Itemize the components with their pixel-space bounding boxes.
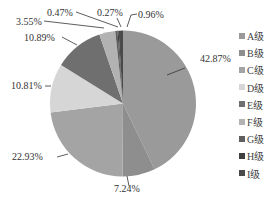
- value-label: 22.93%: [12, 151, 43, 162]
- legend-label: D级: [247, 80, 264, 95]
- legend-item-h: H级: [239, 147, 264, 164]
- leader-line: [44, 21, 104, 28]
- value-label: 0.96%: [138, 9, 164, 20]
- value-label: 0.27%: [97, 7, 123, 18]
- value-label: 42.87%: [200, 53, 231, 64]
- legend-label: B级: [247, 45, 264, 60]
- legend-item-f: F级: [239, 113, 264, 130]
- legend: A级 B级 C级 D级 E级 F级 G级 H级 I级: [239, 27, 264, 182]
- leader-line: [57, 154, 68, 157]
- legend-label: G级: [247, 131, 264, 146]
- legend-label: C级: [247, 62, 264, 77]
- value-label: 0.47%: [47, 7, 73, 18]
- legend-swatch: [239, 170, 245, 176]
- legend-item-e: E级: [239, 96, 264, 113]
- value-label: 10.89%: [24, 32, 55, 43]
- leader-line: [62, 37, 77, 45]
- legend-item-c: C级: [239, 61, 264, 78]
- legend-item-i: I级: [239, 165, 264, 182]
- legend-swatch: [239, 84, 245, 90]
- value-label: 3.55%: [16, 16, 42, 27]
- leader-line: [127, 14, 137, 27]
- legend-swatch: [239, 33, 245, 39]
- legend-item-a: A级: [239, 27, 264, 44]
- legend-item-d: D级: [239, 79, 264, 96]
- legend-swatch: [239, 67, 245, 73]
- legend-label: H级: [247, 148, 264, 163]
- legend-swatch: [239, 153, 245, 159]
- legend-label: I级: [247, 166, 260, 181]
- legend-label: F级: [247, 114, 263, 129]
- legend-label: A级: [247, 28, 264, 43]
- pie-slice-C级: [51, 104, 123, 177]
- legend-swatch: [239, 136, 245, 142]
- legend-item-g: G级: [239, 130, 264, 147]
- value-label: 7.24%: [114, 183, 140, 194]
- legend-swatch: [239, 50, 245, 56]
- leader-line: [117, 18, 121, 27]
- value-label: 10.81%: [11, 80, 42, 91]
- legend-item-b: B级: [239, 44, 264, 61]
- legend-swatch: [239, 101, 245, 107]
- pie-chart: 42.87%7.24%22.93%10.81%10.89%3.55%0.47%0…: [0, 0, 276, 203]
- legend-swatch: [239, 119, 245, 125]
- pie-slices: [50, 31, 196, 177]
- legend-label: E级: [247, 97, 263, 112]
